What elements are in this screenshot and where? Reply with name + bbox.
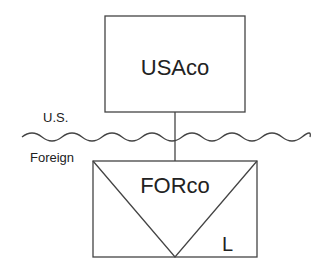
forco-label: FORco: [93, 175, 257, 197]
us-region-label: U.S.: [43, 111, 68, 124]
foreign-region-label: Foreign: [30, 151, 74, 164]
border-wavy-line: [22, 133, 310, 141]
diagram-canvas: [0, 0, 329, 269]
usaco-label: USAco: [105, 57, 245, 79]
forco-l-marker: L: [222, 234, 233, 254]
